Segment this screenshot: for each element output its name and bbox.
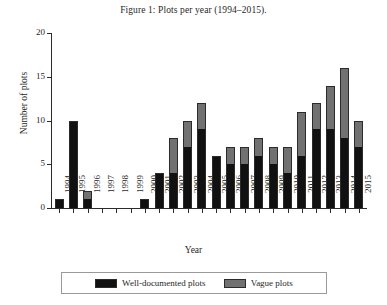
bar-2000 xyxy=(140,199,149,208)
chart-legend: Well-documented plots Vague plots xyxy=(61,272,327,294)
x-tick-mark xyxy=(59,209,60,213)
x-tick-mark xyxy=(131,209,132,213)
bar-2007 xyxy=(240,147,249,208)
bar-segment-well-documented xyxy=(169,173,178,208)
y-tick-mark xyxy=(47,121,51,122)
y-axis-title: Number of plots xyxy=(19,33,29,173)
legend-item-vague: Vague plots xyxy=(224,278,293,288)
bar-segment-vague xyxy=(340,68,349,138)
x-tick-mark xyxy=(345,209,346,213)
bar-segment-well-documented xyxy=(240,164,249,208)
bar-segment-well-documented xyxy=(140,199,149,208)
bar-2002 xyxy=(169,138,178,208)
bar-segment-well-documented xyxy=(55,199,64,208)
bar-2005 xyxy=(212,156,221,209)
plot-area xyxy=(52,33,366,208)
x-tick-mark xyxy=(173,209,174,213)
bar-2011 xyxy=(297,112,306,208)
x-tick-mark xyxy=(245,209,246,213)
bar-segment-well-documented xyxy=(212,156,221,209)
bar-segment-well-documented xyxy=(297,156,306,209)
bar-2003 xyxy=(183,121,192,209)
y-tick-label: 20 xyxy=(5,28,45,37)
y-tick-mark xyxy=(47,208,51,209)
bar-segment-well-documented xyxy=(326,129,335,208)
bar-1994 xyxy=(55,199,64,208)
figure-root: Figure 1: Plots per year (1994–2015). Nu… xyxy=(0,0,387,305)
bar-segment-well-documented xyxy=(226,164,235,208)
x-tick-mark xyxy=(202,209,203,213)
bar-segment-vague xyxy=(183,121,192,147)
bar-segment-well-documented xyxy=(283,173,292,208)
bar-segment-vague xyxy=(226,147,235,165)
y-tick-mark xyxy=(47,33,51,34)
bar-2004 xyxy=(197,103,206,208)
x-tick-mark xyxy=(273,209,274,213)
bar-2012 xyxy=(312,103,321,208)
x-tick-mark xyxy=(330,209,331,213)
legend-item-well: Well-documented plots xyxy=(95,278,206,288)
bar-2010 xyxy=(283,147,292,208)
x-tick-mark xyxy=(316,209,317,213)
x-tick-mark xyxy=(216,209,217,213)
x-tick-mark xyxy=(288,209,289,213)
y-tick-label: 0 xyxy=(5,203,45,212)
bar-segment-well-documented xyxy=(354,147,363,208)
x-tick-mark xyxy=(188,209,189,213)
x-tick-mark xyxy=(102,209,103,213)
bar-segment-well-documented xyxy=(312,129,321,208)
y-tick-label: 10 xyxy=(5,116,45,125)
bar-2014 xyxy=(340,68,349,208)
bar-2009 xyxy=(269,147,278,208)
bar-segment-vague xyxy=(269,147,278,165)
x-axis-title: Year xyxy=(0,245,387,255)
x-tick-mark xyxy=(88,209,89,213)
x-tick-mark xyxy=(302,209,303,213)
bar-2013 xyxy=(326,86,335,209)
bar-2001 xyxy=(155,173,164,208)
x-tick-mark xyxy=(73,209,74,213)
x-tick-mark xyxy=(230,209,231,213)
y-tick-label: 5 xyxy=(5,159,45,168)
y-tick-mark xyxy=(47,77,51,78)
x-tick-mark xyxy=(145,209,146,213)
bar-segment-vague xyxy=(354,121,363,147)
bar-segment-well-documented xyxy=(340,138,349,208)
bar-segment-vague xyxy=(312,103,321,129)
bar-segment-well-documented xyxy=(269,164,278,208)
bar-1995 xyxy=(69,121,78,209)
bar-segment-vague xyxy=(83,191,92,200)
legend-swatch-well-documented xyxy=(95,279,117,288)
bar-segment-vague xyxy=(297,112,306,156)
x-tick-mark xyxy=(359,209,360,213)
bar-segment-well-documented xyxy=(197,129,206,208)
x-tick-mark xyxy=(116,209,117,213)
bar-segment-well-documented xyxy=(69,121,78,209)
bar-segment-vague xyxy=(326,86,335,130)
legend-label-vague: Vague plots xyxy=(251,278,293,288)
legend-swatch-vague xyxy=(224,279,246,288)
bar-segment-vague xyxy=(254,138,263,156)
x-tick-mark xyxy=(159,209,160,213)
figure-caption: Figure 1: Plots per year (1994–2015). xyxy=(0,5,387,15)
bar-2015 xyxy=(354,121,363,209)
y-tick-label: 15 xyxy=(5,72,45,81)
x-tick-mark xyxy=(259,209,260,213)
bar-segment-well-documented xyxy=(254,156,263,209)
y-tick-mark xyxy=(47,164,51,165)
bar-segment-well-documented xyxy=(83,199,92,208)
legend-label-well-documented: Well-documented plots xyxy=(122,278,206,288)
bar-segment-vague xyxy=(197,103,206,129)
bar-segment-well-documented xyxy=(183,147,192,208)
bar-segment-well-documented xyxy=(155,173,164,208)
bar-2006 xyxy=(226,147,235,208)
bar-segment-vague xyxy=(240,147,249,165)
bar-2008 xyxy=(254,138,263,208)
bar-1996 xyxy=(83,191,92,209)
bar-segment-vague xyxy=(283,147,292,173)
bar-segment-vague xyxy=(169,138,178,173)
